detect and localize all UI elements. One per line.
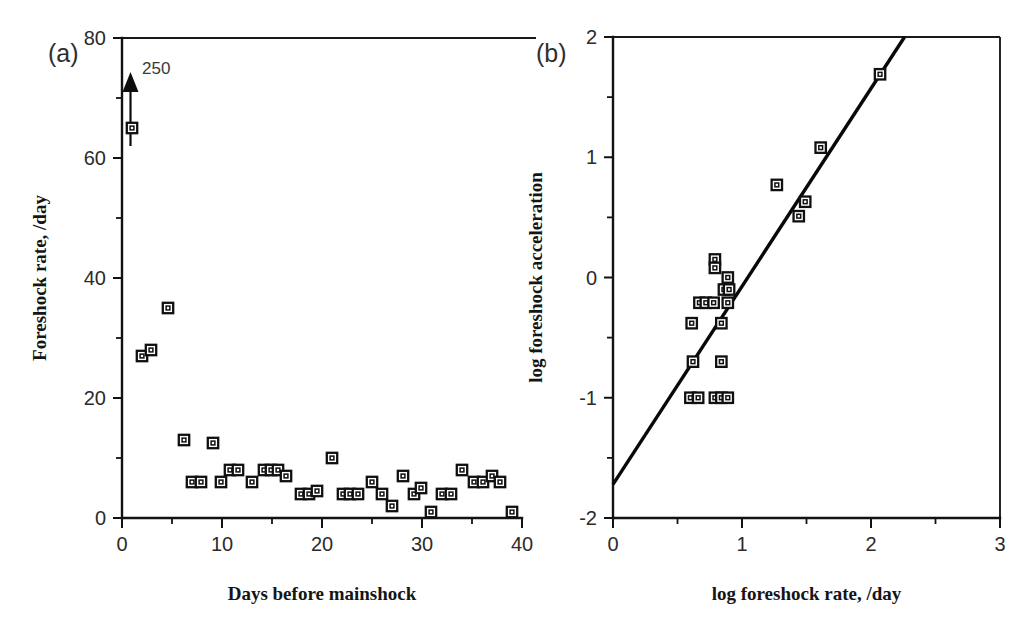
- panel-a-x-ticklabel: 20: [311, 533, 333, 555]
- panel-a-x-ticklabel: 10: [211, 533, 233, 555]
- data-point-marker: [693, 393, 703, 403]
- data-point-marker: [208, 438, 218, 448]
- data-point-marker: [815, 142, 825, 152]
- data-point-marker: [723, 393, 733, 403]
- data-point-marker: [281, 471, 291, 481]
- data-point-marker: [127, 123, 137, 133]
- panel-b-y-ticklabel: 2: [586, 26, 597, 48]
- data-point-marker: [247, 477, 257, 487]
- data-point-marker: [875, 69, 885, 79]
- panel-b-x-ticklabel: 0: [607, 533, 618, 555]
- panel-b-y-ticklabel: 0: [586, 267, 597, 289]
- panel-b-y-axis-title: log foreshock acceleration: [525, 172, 546, 383]
- panel-a-y-ticklabel: 40: [84, 267, 106, 289]
- data-point-marker: [708, 298, 718, 308]
- data-point-marker: [233, 465, 243, 475]
- panel-b-x-ticklabel: 1: [736, 533, 747, 555]
- panel-a-x-ticklabel: 0: [116, 533, 127, 555]
- data-point-marker: [794, 211, 804, 221]
- panel-b-tag: (b): [536, 39, 567, 67]
- panel-b-y-ticklabel: 1: [586, 146, 597, 168]
- panel-a-x-axis-title: Days before mainshock: [228, 583, 417, 604]
- data-point-marker: [327, 453, 337, 463]
- data-point-marker: [216, 477, 226, 487]
- panel-b: (b)-2-10120123log foreshock rate, /daylo…: [500, 0, 1036, 634]
- data-point-marker: [367, 477, 377, 487]
- panel-b-x-axis-title: log foreshock rate, /day: [712, 583, 902, 604]
- data-point-marker: [723, 298, 733, 308]
- data-point-marker: [416, 483, 426, 493]
- figure-root: (a)020406080010203040250Days before main…: [0, 0, 1036, 634]
- data-point-marker: [716, 318, 726, 328]
- data-point-marker: [446, 489, 456, 499]
- panel-a-data-points: [127, 123, 517, 517]
- data-point-marker: [686, 318, 696, 328]
- data-point-marker: [398, 471, 408, 481]
- data-point-marker: [196, 477, 206, 487]
- data-point-marker: [146, 345, 156, 355]
- data-point-marker: [163, 303, 173, 313]
- panel-b-regression-line: [613, 37, 905, 484]
- panel-a-y-axis-title: Foreshock rate, /day: [29, 195, 50, 361]
- panel-b-y-ticklabel: -2: [579, 507, 597, 529]
- panel-a: (a)020406080010203040250Days before main…: [0, 0, 536, 634]
- data-point-marker: [800, 197, 810, 207]
- data-point-marker: [387, 501, 397, 511]
- data-point-marker: [457, 465, 467, 475]
- panel-a-annotation-250: 250: [142, 59, 170, 78]
- data-point-marker: [772, 180, 782, 190]
- panel-a-x-ticklabel: 30: [411, 533, 433, 555]
- panel-b-x-ticklabel: 2: [865, 533, 876, 555]
- panel-a-y-ticklabel: 80: [84, 27, 106, 49]
- panel-a-tag: (a): [48, 39, 79, 67]
- data-point-marker: [724, 284, 734, 294]
- data-point-marker: [426, 507, 436, 517]
- panel-a-y-ticklabel: 0: [95, 507, 106, 529]
- panel-b-x-ticklabel: 3: [994, 533, 1005, 555]
- panel-a-y-ticklabel: 20: [84, 387, 106, 409]
- data-point-marker: [716, 356, 726, 366]
- panel-b-y-ticklabel: -1: [579, 387, 597, 409]
- data-point-marker: [723, 272, 733, 282]
- panel-a-offscale-arrow: [123, 72, 139, 146]
- data-point-marker: [353, 489, 363, 499]
- panel-b-data-points: [685, 69, 885, 403]
- data-point-marker: [312, 486, 322, 496]
- data-point-marker: [688, 356, 698, 366]
- data-point-marker: [179, 435, 189, 445]
- data-point-marker: [377, 489, 387, 499]
- data-point-marker: [710, 263, 720, 273]
- panel-a-y-ticklabel: 60: [84, 147, 106, 169]
